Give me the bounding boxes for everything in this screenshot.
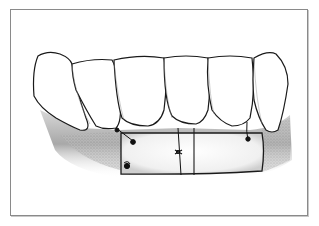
tooth-3 [114, 56, 166, 126]
tooth-5 [208, 56, 254, 126]
gingival-graft [121, 128, 264, 175]
dental-illustration [0, 0, 319, 226]
teeth [34, 52, 289, 132]
tooth-6 [253, 53, 288, 132]
